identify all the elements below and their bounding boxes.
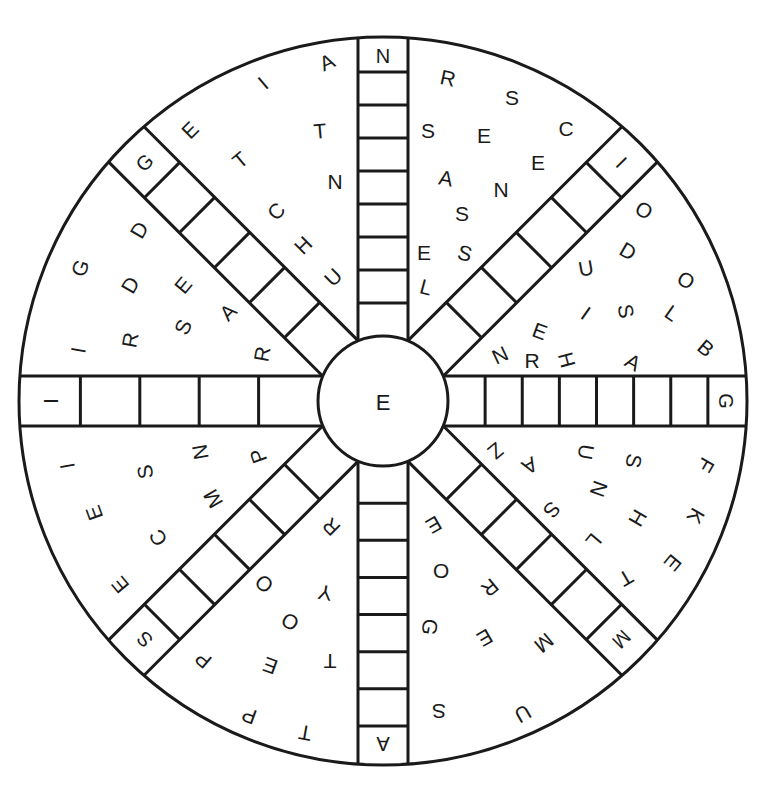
given-letter-south: A xyxy=(376,733,390,755)
scattered-letter: O xyxy=(673,266,699,294)
scattered-letter: C xyxy=(263,198,290,225)
spoke-north-cell-2[interactable] xyxy=(358,270,408,303)
spoke-north: N xyxy=(358,38,408,341)
spoke-east-cell-3[interactable] xyxy=(522,376,559,426)
scattered-letter: D xyxy=(125,218,153,243)
scattered-letter: O xyxy=(250,570,277,598)
spoke-west-cell-3[interactable] xyxy=(140,376,199,426)
word-wheel-puzzle: NIGMASIG E AIETTNCHUGDDEIRSARRSSECEANSES… xyxy=(0,0,760,798)
scattered-letter: N xyxy=(327,170,342,193)
scattered-letter: M xyxy=(530,629,558,658)
spoke-east-cell-5[interactable] xyxy=(597,376,634,426)
spoke-south-cell-4[interactable] xyxy=(358,577,408,614)
scattered-letter: G xyxy=(66,256,93,279)
spoke-north-cell-3[interactable] xyxy=(358,237,408,270)
scattered-letter: U xyxy=(320,264,347,291)
scattered-letter: L xyxy=(581,529,606,553)
spoke-west-cell-2[interactable] xyxy=(199,376,258,426)
scattered-letter: O xyxy=(433,560,449,583)
scattered-letter: E xyxy=(473,625,497,652)
scattered-letter: E xyxy=(417,241,431,264)
scattered-letter: Y xyxy=(316,580,334,605)
scattered-letter: M xyxy=(199,486,228,513)
spoke-north-cell-1[interactable] xyxy=(358,303,408,336)
scattered-letter: P xyxy=(190,647,216,674)
scattered-letter: E xyxy=(422,512,446,539)
scattered-letter: N xyxy=(187,443,212,462)
scattered-letter: K xyxy=(683,504,710,528)
spoke-north-cell-4[interactable] xyxy=(358,204,408,237)
scattered-letter: S xyxy=(455,240,474,266)
spoke-south-cell-6[interactable] xyxy=(358,652,408,689)
scattered-letter: I xyxy=(55,461,79,471)
scattered-letter: P xyxy=(238,703,259,729)
scattered-letter: R xyxy=(524,349,539,372)
spoke-south-cell-3[interactable] xyxy=(358,540,408,577)
given-letter-north: N xyxy=(376,45,390,67)
spoke-north-cell-5[interactable] xyxy=(358,171,408,204)
scattered-letter: A xyxy=(518,453,542,480)
scattered-letter: I xyxy=(577,302,595,324)
scattered-letter: D xyxy=(116,273,144,298)
spoke-north-cell-6[interactable] xyxy=(358,138,408,171)
scattered-letter: T xyxy=(297,721,314,746)
spoke-east-cell-2[interactable] xyxy=(485,376,522,426)
scattered-letter: S xyxy=(621,452,646,470)
given-letter-east: G xyxy=(715,393,737,409)
scattered-letter: L xyxy=(417,274,434,299)
scattered-letter: H xyxy=(290,232,317,259)
scattered-letter: G xyxy=(417,617,442,637)
scattered-letter: A xyxy=(316,49,338,76)
spoke-south-cell-5[interactable] xyxy=(358,615,408,652)
scattered-letter: E xyxy=(660,550,687,576)
scattered-letter: E xyxy=(531,151,545,174)
spoke-south-cell-1[interactable] xyxy=(358,466,408,503)
spoke-west-cell-1[interactable] xyxy=(259,376,318,426)
spoke-south-cell-2[interactable] xyxy=(358,503,408,540)
scattered-letter: A xyxy=(437,165,455,190)
scattered-letter: I xyxy=(253,72,272,93)
scattered-letter: N xyxy=(493,178,508,201)
spoke-east-cell-6[interactable] xyxy=(634,376,671,426)
scattered-letter: S xyxy=(539,497,566,523)
scattered-letter: L xyxy=(661,300,684,326)
scattered-letter: R xyxy=(318,514,345,541)
scattered-letter: T xyxy=(313,119,328,143)
scattered-letter: A xyxy=(621,349,645,376)
spoke-south-cell-7[interactable] xyxy=(358,689,408,726)
scattered-letter: E xyxy=(177,117,203,143)
scattered-letter: O xyxy=(277,608,303,636)
scattered-letter: I xyxy=(66,345,90,355)
scattered-letter: C xyxy=(558,117,573,140)
scattered-letter: R xyxy=(249,345,274,364)
scattered-letter: U xyxy=(573,443,598,462)
scattered-letter: F xyxy=(693,454,719,477)
scattered-letter: U xyxy=(511,700,536,728)
spoke-north-cell-7[interactable] xyxy=(358,105,408,138)
scattered-letter: E xyxy=(529,318,550,344)
scattered-letter: N xyxy=(488,341,511,368)
scattered-letter: D xyxy=(616,237,641,265)
scattered-letter: S xyxy=(170,316,197,338)
spoke-east-cell-1[interactable] xyxy=(448,376,485,426)
spoke-west-cell-4[interactable] xyxy=(80,376,139,426)
scattered-letter: E xyxy=(107,572,134,598)
scattered-letter: R xyxy=(477,574,503,601)
scattered-letter: T xyxy=(615,565,638,591)
scattered-letter: P xyxy=(245,445,271,466)
scattered-letter: S xyxy=(421,119,435,142)
spoke-east-cell-7[interactable] xyxy=(671,376,708,426)
spoke-east-cell-4[interactable] xyxy=(559,376,596,426)
scattered-letter: S xyxy=(455,202,469,225)
scattered-letter: E xyxy=(81,502,107,523)
scattered-letter: Z xyxy=(484,438,509,464)
scattered-letter: E xyxy=(170,272,197,298)
spoke-north-cell-8[interactable] xyxy=(358,72,408,105)
scattered-letter: A xyxy=(215,299,241,325)
spoke-west: I xyxy=(20,376,323,426)
scattered-letter: H xyxy=(624,506,652,531)
scattered-letter: E xyxy=(477,124,491,147)
spoke-south-west: S xyxy=(109,426,359,676)
scattered-letter: E xyxy=(259,653,280,679)
scattered-letter: S xyxy=(613,302,638,320)
